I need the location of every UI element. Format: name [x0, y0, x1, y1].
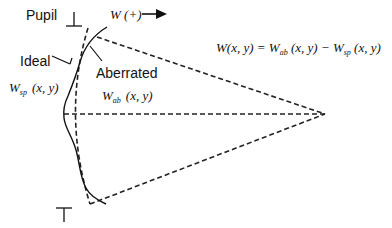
wavefront-aberration-diagram: Pupil W (+) Ideal Aberrated Wsp(x, y) Wa…	[0, 0, 392, 228]
wavefront-equation: W(x, y) = Wab (x, y) − Wsp (x, y)	[216, 40, 381, 57]
svg-text:Wab(x, y): Wab(x, y)	[102, 88, 153, 105]
svg-text:Wsp(x, y): Wsp(x, y)	[9, 80, 59, 97]
ideal-leader	[52, 56, 70, 64]
w-sp-label: Wsp(x, y)	[9, 80, 59, 97]
svg-text:W(x, y) = Wab (x, y) − Wsp (x,: W(x, y) = Wab (x, y) − Wsp (x, y)	[216, 40, 381, 57]
pupil-label: Pupil	[26, 7, 57, 23]
aberrated-label: Aberrated	[96, 65, 157, 81]
aberrated-wavefront	[64, 27, 107, 204]
aberrated-leader	[90, 46, 102, 61]
lower-ray	[90, 114, 325, 204]
pupil-top-marker-icon	[66, 12, 82, 26]
pupil-bottom-marker-icon	[56, 208, 72, 222]
ray-lines	[64, 37, 325, 204]
right-arrow-icon	[142, 9, 167, 19]
ideal-label: Ideal	[20, 53, 50, 69]
w-direction-label: W (+)	[110, 7, 142, 22]
w-ab-label: Wab(x, y)	[102, 88, 153, 105]
